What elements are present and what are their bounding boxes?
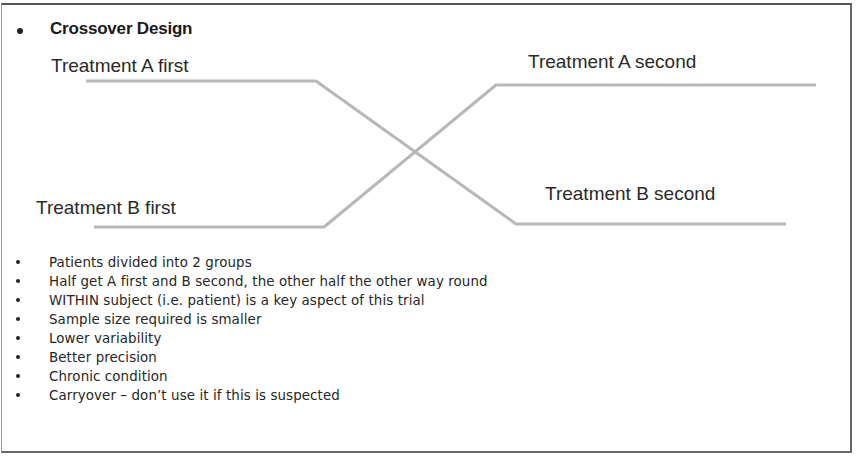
label-treatment-b-second: Treatment B second xyxy=(545,183,715,205)
list-item-text: Patients divided into 2 groups xyxy=(49,255,252,270)
bullet-icon xyxy=(16,393,20,397)
list-item: Patients divided into 2 groups xyxy=(2,253,842,272)
list-item-text: Carryover – don’t use it if this is susp… xyxy=(49,388,340,403)
bullet-icon xyxy=(16,298,20,302)
label-treatment-a-first: Treatment A first xyxy=(51,55,189,77)
bullet-icon xyxy=(16,260,20,264)
list-item: Carryover – don’t use it if this is susp… xyxy=(2,386,842,405)
crossover-diagram: Treatment A first Treatment A second Tre… xyxy=(2,5,853,250)
list-item-text: Lower variability xyxy=(49,331,161,346)
list-item: Better precision xyxy=(2,348,842,367)
list-item-text: Sample size required is smaller xyxy=(49,312,262,327)
bullet-icon xyxy=(16,336,20,340)
path-b-first-to-a-second xyxy=(94,85,816,227)
bullet-icon xyxy=(16,374,20,378)
list-item-text: Better precision xyxy=(49,350,157,365)
list-item: Lower variability xyxy=(2,329,842,348)
list-item: WITHIN subject (i.e. patient) is a key a… xyxy=(2,291,842,310)
list-item-text: Chronic condition xyxy=(49,369,168,384)
list-item: Half get A first and B second, the other… xyxy=(2,272,842,291)
label-treatment-b-first: Treatment B first xyxy=(36,197,176,219)
slide-frame: Crossover Design Treatment A first Treat… xyxy=(1,3,852,453)
list-item: Chronic condition xyxy=(2,367,842,386)
list-item-text: WITHIN subject (i.e. patient) is a key a… xyxy=(49,293,425,308)
label-treatment-a-second: Treatment A second xyxy=(528,51,696,73)
bullet-icon xyxy=(16,317,20,321)
bullet-icon xyxy=(16,355,20,359)
bullet-icon xyxy=(16,279,20,283)
bullet-list: Patients divided into 2 groups Half get … xyxy=(2,253,842,405)
list-item: Sample size required is smaller xyxy=(2,310,842,329)
list-item-text: Half get A first and B second, the other… xyxy=(49,274,488,289)
